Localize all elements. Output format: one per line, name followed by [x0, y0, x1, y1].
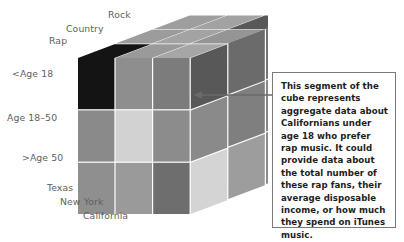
figure-canvas: FIGURE 9-10 A data cube for an online mu… [0, 0, 404, 242]
axis-label-age-18-50: Age 18–50 [7, 112, 57, 123]
axis-label-age-under-18: <Age 18 [12, 68, 53, 79]
axis-label-genre-country: Country [66, 23, 104, 34]
callout-text: This segment of the cube represents aggr… [281, 80, 389, 241]
axis-label-state-texas: Texas [47, 182, 73, 193]
axis-label-age-over-50: >Age 50 [22, 152, 63, 163]
callout-box: This segment of the cube represents aggr… [272, 72, 396, 228]
axis-label-state-california: California [83, 210, 128, 221]
axis-label-genre-rock: Rock [108, 9, 131, 20]
axis-label-genre-rap: Rap [49, 35, 67, 46]
axis-label-state-new-york: New York [60, 196, 103, 207]
